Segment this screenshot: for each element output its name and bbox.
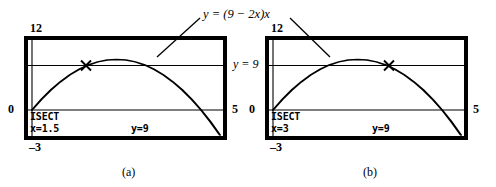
y-axis-top-label-b: 12 bbox=[271, 22, 283, 34]
isect-x-readout-b: x=3 bbox=[271, 124, 288, 134]
line-label-y-equals-9: y = 9 bbox=[233, 58, 258, 70]
graph-plot-b bbox=[265, 36, 468, 140]
equation-text: y = (9 − 2x)x bbox=[203, 7, 270, 21]
parabola-curve-b bbox=[273, 59, 461, 135]
x-axis-left-label-b: –3 bbox=[270, 141, 282, 153]
y-axis-top-label-a: 12 bbox=[30, 22, 42, 34]
equation-callout-label: y = (9 − 2x)x bbox=[203, 7, 270, 22]
isect-title-a: ISECT bbox=[30, 112, 59, 122]
x-axis-left-label-a: –3 bbox=[29, 141, 41, 153]
figure-two-calculator-screens: y = (9 − 2x)x 12 0 –3 5 ISECT x=1.5 y=9 … bbox=[0, 0, 496, 187]
calculator-screen-b bbox=[265, 36, 468, 140]
isect-x-readout-a: x=1.5 bbox=[30, 124, 59, 134]
y-axis-zero-label-a: 0 bbox=[8, 103, 14, 115]
y-axis-zero-label-b: 0 bbox=[249, 103, 255, 115]
caption-a: (a) bbox=[122, 165, 135, 180]
x-axis-right-label-a: 5 bbox=[232, 103, 238, 115]
isect-y-readout-a: y=9 bbox=[131, 124, 148, 134]
isect-y-readout-b: y=9 bbox=[372, 124, 389, 134]
isect-title-b: ISECT bbox=[271, 112, 300, 122]
caption-b: (b) bbox=[363, 165, 377, 180]
x-axis-right-label-b: 5 bbox=[473, 103, 479, 115]
parabola-curve-a bbox=[32, 59, 220, 135]
